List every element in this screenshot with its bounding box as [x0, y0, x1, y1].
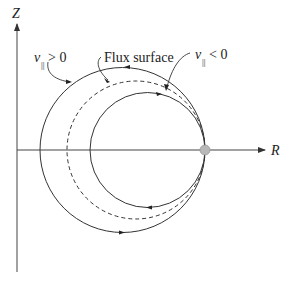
- flux-surface-diagram: Z R v || > 0 Flux surface v || < 0: [0, 0, 287, 283]
- leader-line: [48, 62, 70, 82]
- svg-text:||: ||: [41, 60, 45, 70]
- z-axis-label: Z: [12, 6, 20, 21]
- arrow-icon: [156, 92, 162, 96]
- svg-text:> 0: > 0: [48, 50, 66, 65]
- v-parallel-negative-label: v || < 0: [195, 47, 227, 67]
- svg-text:||: ||: [202, 57, 206, 67]
- flux-surface-label: Flux surface: [104, 50, 174, 65]
- arrow-icon: [66, 80, 72, 85]
- arrow-icon: [146, 206, 152, 210]
- svg-text:v: v: [34, 50, 41, 65]
- arrow-icon: [164, 84, 169, 91]
- svg-text:v: v: [195, 47, 202, 62]
- r-axis-label: R: [270, 143, 280, 158]
- svg-text:< 0: < 0: [209, 47, 227, 62]
- arrow-icon: [124, 65, 130, 69]
- v-parallel-positive-label: v || > 0: [34, 50, 66, 70]
- arrow-icon: [119, 231, 125, 235]
- x-point-marker: [200, 145, 210, 155]
